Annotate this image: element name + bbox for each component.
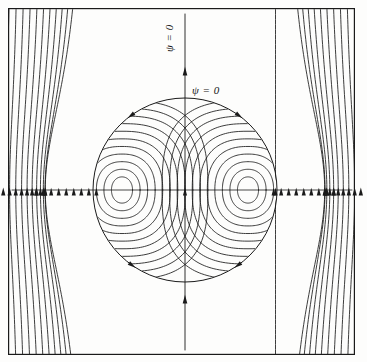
streamline-plot xyxy=(0,0,367,362)
psi-zero-horizontal-label: ψ = 0 xyxy=(192,84,220,96)
psi-zero-vertical-label: ψ = 0 xyxy=(163,24,175,52)
streamline-figure: ψ = 0 ψ = 0 xyxy=(0,0,367,362)
